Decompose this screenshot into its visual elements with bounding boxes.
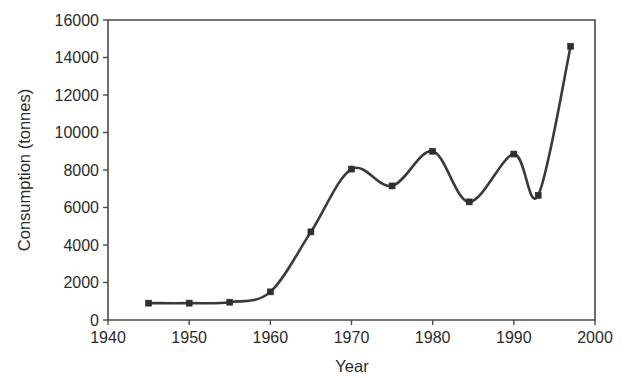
data-point-marker xyxy=(389,183,395,189)
y-tick-label: 6000 xyxy=(63,199,99,216)
x-tick-label: 1980 xyxy=(415,329,451,346)
y-axis-title: Consumption (tonnes) xyxy=(15,89,33,251)
x-axis-tick-labels: 1940195019601970198019902000 xyxy=(90,329,613,346)
data-point-marker xyxy=(568,43,574,49)
data-point-marker xyxy=(267,289,273,295)
data-point-marker xyxy=(186,300,192,306)
x-tick-label: 1960 xyxy=(253,329,289,346)
data-point-marker xyxy=(466,199,472,205)
y-tick-label: 10000 xyxy=(55,124,100,141)
x-tick-label: 1990 xyxy=(496,329,532,346)
data-point-marker xyxy=(430,148,436,154)
y-tick-label: 12000 xyxy=(55,87,100,104)
x-axis-title: Year xyxy=(335,357,369,375)
chart-container: 0200040006000800010000120001400016000 19… xyxy=(0,0,626,378)
line-chart: 0200040006000800010000120001400016000 19… xyxy=(0,0,626,378)
data-series-markers xyxy=(146,43,574,306)
y-tick-label: 14000 xyxy=(55,49,100,66)
data-series-line xyxy=(149,46,571,303)
y-tick-label: 8000 xyxy=(63,162,99,179)
y-tick-label: 4000 xyxy=(63,237,99,254)
series-path xyxy=(149,46,571,303)
data-point-marker xyxy=(146,300,152,306)
y-tick-label: 2000 xyxy=(63,274,99,291)
data-point-marker xyxy=(349,166,355,172)
x-tick-label: 1950 xyxy=(171,329,207,346)
y-tick-label: 0 xyxy=(90,312,99,329)
x-tick-label: 1970 xyxy=(334,329,370,346)
y-axis-tick-labels: 0200040006000800010000120001400016000 xyxy=(55,12,100,329)
x-tick-label: 2000 xyxy=(577,329,613,346)
data-point-marker xyxy=(535,192,541,198)
data-point-marker xyxy=(308,229,314,235)
data-point-marker xyxy=(511,151,517,157)
y-tick-label: 16000 xyxy=(55,12,100,29)
x-tick-label: 1940 xyxy=(90,329,126,346)
data-point-marker xyxy=(227,299,233,305)
